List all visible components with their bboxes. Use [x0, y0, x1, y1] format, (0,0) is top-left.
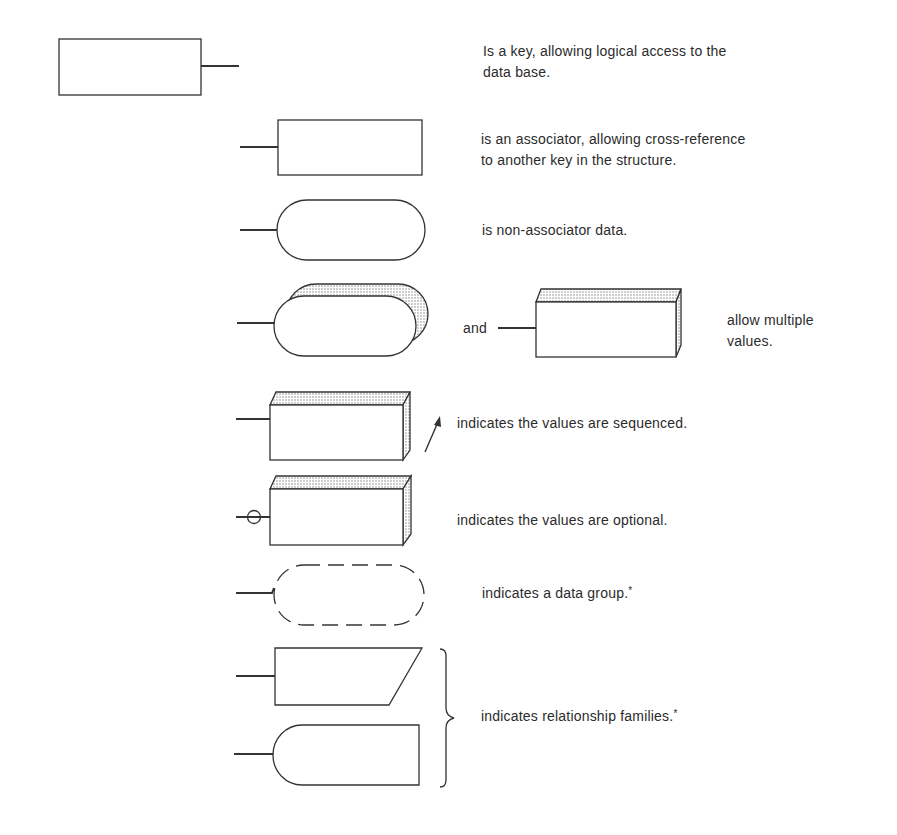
footnote-asterisk: *: [628, 585, 632, 596]
optional-values-symbol: [236, 476, 411, 545]
multi-value-box-symbol: [498, 289, 681, 357]
key-description-line2: data base.: [483, 62, 727, 83]
multiple-values-line2: values.: [727, 331, 814, 352]
sequence-arrow-icon: [425, 416, 441, 452]
relationship-family-rounded-symbol: [234, 725, 419, 785]
grouping-brace: [440, 649, 454, 787]
data-group-symbol: [236, 565, 424, 625]
relationship-families-description: indicates relationship families.*: [481, 706, 677, 727]
associator-description-line1: is an associator, allowing cross-referen…: [481, 129, 745, 150]
associator-description-line2: to another key in the structure.: [481, 150, 745, 171]
non-associator-data-symbol: [240, 200, 425, 260]
multi-value-oval-symbol: [237, 284, 428, 356]
sequenced-description: indicates the values are sequenced.: [457, 413, 687, 434]
key-symbol: [59, 39, 239, 95]
relationship-family-slanted-symbol: [236, 648, 422, 705]
multiple-values-description: allow multiple values.: [727, 310, 814, 352]
key-description: Is a key, allowing logical access to the…: [483, 41, 727, 83]
footnote-asterisk: *: [673, 708, 677, 719]
associator-symbol: [240, 120, 422, 175]
key-description-line1: Is a key, allowing logical access to the: [483, 41, 727, 62]
and-connector-label: and: [463, 318, 487, 339]
sequenced-values-symbol: [236, 392, 410, 460]
non-associator-description: is non-associator data.: [482, 220, 627, 241]
associator-description: is an associator, allowing cross-referen…: [481, 129, 745, 171]
multiple-values-line1: allow multiple: [727, 310, 814, 331]
notation-diagram: [0, 0, 897, 835]
optional-description: indicates the values are optional.: [457, 510, 668, 531]
data-group-description: indicates a data group.*: [482, 583, 632, 604]
